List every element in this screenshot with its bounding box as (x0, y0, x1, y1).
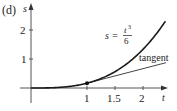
curve-label: s = t 3 6 (105, 24, 132, 46)
curve-label-denominator: 6 (124, 36, 129, 46)
tangent-label: tangent (139, 52, 169, 63)
curve-label-numerator: t (124, 25, 127, 35)
x-axis-arrow-icon (161, 86, 168, 91)
y-tick-2: 2 (20, 24, 26, 36)
x-tick-2: 2 (139, 92, 145, 104)
x-tick-1: 1 (84, 92, 90, 104)
y-tick-1: 1 (21, 53, 27, 65)
curve-label-lhs: s = (105, 30, 118, 41)
y-axis-arrow-icon (29, 3, 34, 10)
x-tick-1-5: 1.5 (107, 92, 121, 104)
curve-label-exponent: 3 (128, 24, 131, 30)
x-axis-label: t (162, 92, 165, 103)
tangent-point (85, 81, 89, 85)
diagram-canvas: (d) 2 1 s 1 1.5 2 t s = t 3 6 tangent (0, 0, 177, 111)
panel-label: (d) (2, 3, 16, 17)
y-axis-label: s (23, 3, 27, 14)
